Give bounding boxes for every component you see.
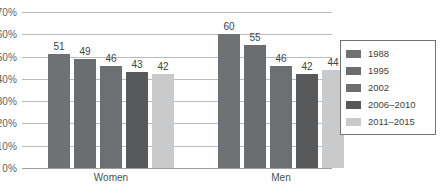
bar-chart: 0%10%20%30%40%50%60%70% 5149464342605546… [0, 0, 443, 193]
legend-item[interactable]: 2011–2015 [346, 113, 430, 130]
legend-item[interactable]: 2006–2010 [346, 96, 430, 113]
bar: 60 [218, 34, 240, 168]
legend-item[interactable]: 1995 [346, 62, 430, 79]
bar-value-label: 42 [301, 61, 312, 72]
y-axis-tick-label: 10% [0, 140, 17, 151]
y-axis-tick-label: 40% [0, 73, 17, 84]
legend-item[interactable]: 1988 [346, 45, 430, 62]
bar: 55 [244, 45, 266, 168]
legend-swatch-icon [346, 67, 361, 75]
y-axis-tick-label: 70% [0, 7, 17, 18]
axis-baseline: 0% [22, 168, 332, 169]
bar-value-label: 46 [275, 53, 286, 64]
bar-value-label: 43 [131, 59, 142, 70]
bar: 46 [100, 66, 122, 169]
bar-value-label: 51 [53, 41, 64, 52]
legend-swatch-icon [346, 84, 361, 92]
bar: 43 [126, 72, 148, 168]
bar: 42 [152, 74, 174, 168]
y-axis-tick-label: 60% [0, 29, 17, 40]
legend-label: 2006–2010 [368, 100, 416, 110]
plot-area: 0%10%20%30%40%50%60%70% 5149464342605546… [22, 12, 332, 168]
category-label: Men [271, 172, 290, 183]
bar-value-label: 60 [223, 21, 234, 32]
y-axis-tick-label: 50% [0, 51, 17, 62]
legend-label: 2002 [368, 83, 389, 93]
bar: 51 [48, 54, 70, 168]
bar-value-label: 44 [327, 57, 338, 68]
bars-layer: 51494643426055464244 [22, 12, 332, 168]
category-label: Women [94, 172, 128, 183]
legend-swatch-icon [346, 101, 361, 109]
bar-value-label: 42 [157, 61, 168, 72]
bar-value-label: 49 [79, 46, 90, 57]
legend-item[interactable]: 2002 [346, 79, 430, 96]
legend-swatch-icon [346, 118, 361, 126]
bar-value-label: 46 [105, 53, 116, 64]
legend-label: 1995 [368, 66, 389, 76]
bar: 42 [296, 74, 318, 168]
legend-label: 2011–2015 [368, 117, 415, 127]
legend-label: 1988 [368, 49, 389, 59]
y-axis-tick-label: 0% [2, 163, 17, 174]
y-axis-tick-label: 30% [0, 96, 17, 107]
bar: 49 [74, 59, 96, 168]
chart-legend: 1988199520022006–20102011–2015 [340, 40, 436, 135]
legend-swatch-icon [346, 50, 361, 58]
bar: 46 [270, 66, 292, 169]
y-axis-tick-label: 20% [0, 118, 17, 129]
bar-value-label: 55 [249, 32, 260, 43]
